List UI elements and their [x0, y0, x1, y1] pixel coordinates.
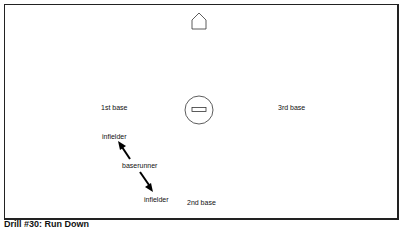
- arrow-up-left-icon: [118, 141, 130, 159]
- infielder-top-label: infielder: [102, 133, 127, 140]
- infielder-bottom-label: infielder: [144, 196, 169, 203]
- third-base-label: 3rd base: [278, 104, 305, 111]
- diagram-caption: Drill #30: Run Down: [4, 219, 89, 227]
- second-base-label: 2nd base: [187, 199, 216, 206]
- first-base-label: 1st base: [101, 104, 127, 111]
- home-plate-icon: [192, 13, 206, 29]
- baserunner-label: baserunner: [122, 162, 157, 169]
- pitchers-mound-icon: [185, 96, 213, 124]
- diagram-graphics: [0, 0, 403, 227]
- arrow-down-right-icon: [140, 172, 153, 192]
